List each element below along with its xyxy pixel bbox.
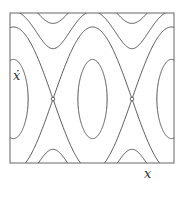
trajectories [0,0,183,198]
saddle-point-marker [51,97,55,101]
y-axis-label: ẋ [13,68,20,83]
trajectory [7,0,176,7]
saddle-point-marker [130,97,134,101]
trajectory [7,0,176,23]
phase-portrait [0,0,183,198]
x-axis-label: x [144,166,151,181]
trajectory [7,99,176,171]
trajectory [7,11,176,49]
trajectory [157,59,183,138]
plot-frame [10,13,174,163]
saddle-points [51,97,134,101]
trajectory [7,27,176,99]
trajectory [7,191,176,198]
trajectory [78,59,107,138]
